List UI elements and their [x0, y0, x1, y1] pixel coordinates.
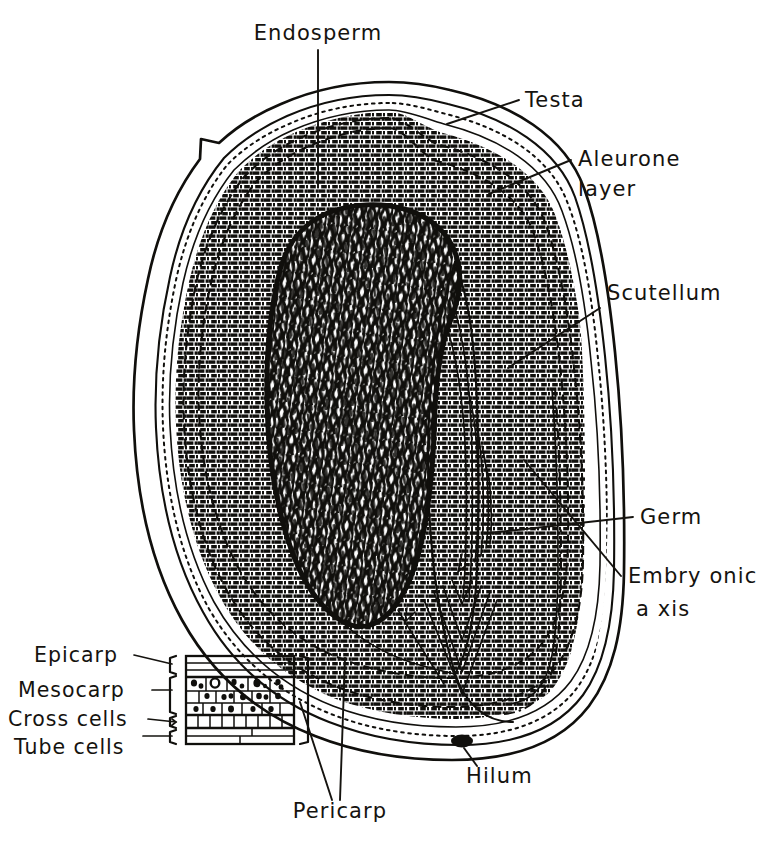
label-endosperm-text: Endosperm	[254, 21, 383, 45]
inset-label-tube-cells: Tube cells	[13, 735, 125, 759]
label-germ-text: Germ	[640, 505, 702, 529]
figure-canvas: Endosperm Testa Aleurone layer Scutellum…	[0, 0, 779, 845]
label-aleurone-text2: layer	[578, 177, 636, 201]
hilum-mark	[451, 735, 473, 748]
label-aleurone-text: Aleurone	[578, 147, 680, 171]
inset-label-epicarp: Epicarp	[34, 643, 118, 667]
label-testa-text: Testa	[524, 88, 585, 112]
inset-label-cross-cells: Cross cells	[8, 707, 128, 731]
wheat-grain-diagram: Endosperm Testa Aleurone layer Scutellum…	[0, 0, 779, 845]
label-embryonic-axis-text2: a xis	[636, 597, 690, 621]
label-scutellum-text: Scutellum	[607, 281, 722, 305]
label-pericarp-text: Pericarp	[293, 799, 387, 823]
label-hilum-text: Hilum	[466, 764, 533, 788]
label-embryonic-axis-text: Embry onic	[628, 564, 757, 588]
inset-label-mesocarp: Mesocarp	[18, 678, 125, 702]
